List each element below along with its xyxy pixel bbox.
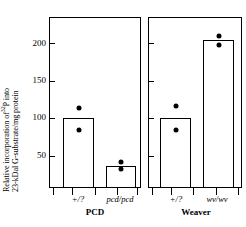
y-tick-mark-150-pcd [50, 81, 55, 82]
category-label-pcd-mutant: pcd/pcd [107, 195, 134, 204]
y-tick-mark-100-weaver [149, 118, 154, 119]
category-label-weaver-control: +/? [170, 195, 182, 204]
y-axis-tick-labels: 200 150 100 50 [22, 0, 46, 190]
datapoint-pcd-mutant-2 [119, 167, 124, 172]
y-tick-mark-200-weaver [149, 43, 154, 44]
y-tick-label-150: 150 [24, 76, 46, 85]
group-label-weaver: Weaver [181, 208, 211, 217]
category-label-pcd-control: +/? [72, 195, 84, 204]
datapoint-weaver-mutant-2 [216, 43, 221, 48]
y-tick-mark-100-pcd [50, 118, 55, 119]
group-label-pcd: PCD [86, 208, 105, 217]
datapoint-weaver-control-2 [173, 128, 178, 133]
plot-area-weaver [149, 18, 241, 187]
datapoint-pcd-mutant-1 [119, 160, 124, 165]
datapoint-weaver-mutant-1 [216, 34, 221, 39]
y-tick-mark-50-pcd [50, 156, 55, 157]
y-axis-label-text-1-tail: P into [2, 88, 11, 106]
panel-pcd [49, 17, 141, 188]
panel-weaver [148, 17, 242, 188]
y-tick-mark-150-weaver [149, 81, 154, 82]
plot-area-pcd [50, 18, 140, 187]
datapoint-pcd-control-1 [76, 106, 81, 111]
y-tick-label-200: 200 [24, 39, 46, 48]
x-tick-weaver-1 [152, 188, 153, 195]
x-tick-pcd-1 [53, 188, 54, 195]
y-tick-label-50: 50 [24, 151, 46, 160]
y-tick-label-100: 100 [24, 113, 46, 122]
y-axis-label-text-1: Relative incorporation of [2, 112, 11, 192]
datapoint-pcd-control-2 [76, 128, 81, 133]
datapoint-weaver-control-1 [173, 104, 178, 109]
y-axis-label-line-2: 23-kDal G-substrate/mg protein [12, 10, 22, 192]
x-tick-weaver-5 [238, 188, 239, 195]
figure-root: Relative incorporation of32P into 23-kDa… [0, 0, 246, 227]
x-tick-pcd-5 [137, 188, 138, 195]
category-label-weaver-mutant: wv/wv [206, 195, 227, 204]
y-tick-mark-200-pcd [50, 43, 55, 44]
y-tick-mark-50-weaver [149, 156, 154, 157]
x-tick-pcd-3 [95, 188, 96, 195]
x-tick-weaver-3 [193, 188, 194, 195]
bar-weaver-mutant [203, 40, 234, 187]
y-axis-label-superscript: 32 [0, 106, 6, 112]
